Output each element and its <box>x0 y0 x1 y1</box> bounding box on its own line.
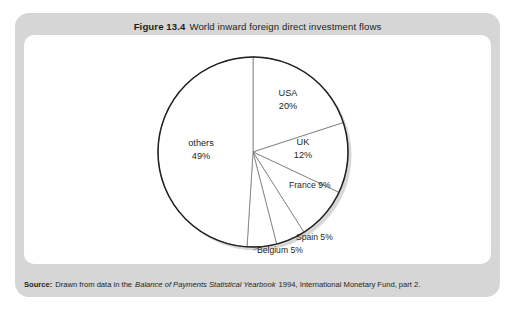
source-lead: Drawn from data in the <box>55 280 132 289</box>
source-label: Source: <box>24 280 52 289</box>
source-note: Source: Drawn from data in the Balance o… <box>24 276 491 292</box>
figure-container: Figure 13.4 World inward foreign direct … <box>0 0 513 312</box>
chart-panel <box>24 35 491 264</box>
figure-caption: Figure 13.4 World inward foreign direct … <box>15 15 500 37</box>
figure-title: World inward foreign direct investment f… <box>189 21 381 32</box>
source-rest: 1994, International Monetary Fund, part … <box>279 280 421 289</box>
figure-number: Figure 13.4 <box>134 21 186 32</box>
source-publication-title: Balance of Payments Statistical Yearbook <box>135 280 275 289</box>
